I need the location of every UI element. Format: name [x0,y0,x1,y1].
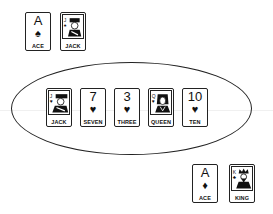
spade-icon: ♠ [26,28,50,39]
card-name: ACE [26,43,50,49]
king-portrait-icon: K♣ [231,166,253,191]
card-ace-diamonds[interactable]: A ♦ ACE [192,164,218,203]
card-queen-hearts[interactable]: Q♥ QUEEN [148,88,174,127]
card-name: JACK [47,119,71,125]
diamond-icon: ♦ [193,180,217,191]
card-name: ACE [193,195,217,201]
card-rank: 7 [81,90,105,103]
card-rank: A [193,166,217,179]
heart-icon: ♥ [81,104,105,115]
card-name: KING [230,195,254,201]
queen-portrait-icon: Q♥ [150,90,172,115]
svg-text:♠: ♠ [64,22,67,28]
card-name: QUEEN [149,119,173,125]
card-name: JACK [61,43,85,49]
card-rank: 10 [183,90,207,103]
card-jack-spades[interactable]: J♠ JACK [60,12,86,51]
svg-text:♣: ♣ [233,174,237,180]
card-ace-spades[interactable]: A ♠ ACE [25,12,51,51]
card-king-clubs[interactable]: K♣ KING [229,164,255,203]
card-jack-hearts[interactable]: J♥ JACK [46,88,72,127]
card-name: THREE [115,119,139,125]
heart-icon: ♥ [115,104,139,115]
heart-icon: ♥ [183,104,207,115]
svg-text:♥: ♥ [152,98,155,104]
jack-portrait-icon: J♠ [62,14,84,39]
card-ten-hearts[interactable]: 10 ♥ TEN [182,88,208,127]
svg-text:♥: ♥ [50,98,53,104]
card-name: TEN [183,119,207,125]
card-rank: 3 [115,90,139,103]
card-seven-hearts[interactable]: 7 ♥ SEVEN [80,88,106,127]
card-rank: A [26,14,50,27]
card-three-hearts[interactable]: 3 ♥ THREE [114,88,140,127]
card-name: SEVEN [81,119,105,125]
jack-portrait-icon: J♥ [48,90,70,115]
